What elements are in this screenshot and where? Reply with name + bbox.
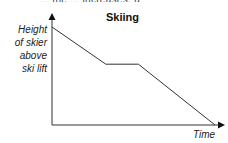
- y-axis-arrow-icon: [49, 13, 56, 20]
- x-axis-arrow-icon: [218, 122, 225, 129]
- chart-plot: [0, 0, 228, 143]
- series-line-height: [52, 27, 215, 125]
